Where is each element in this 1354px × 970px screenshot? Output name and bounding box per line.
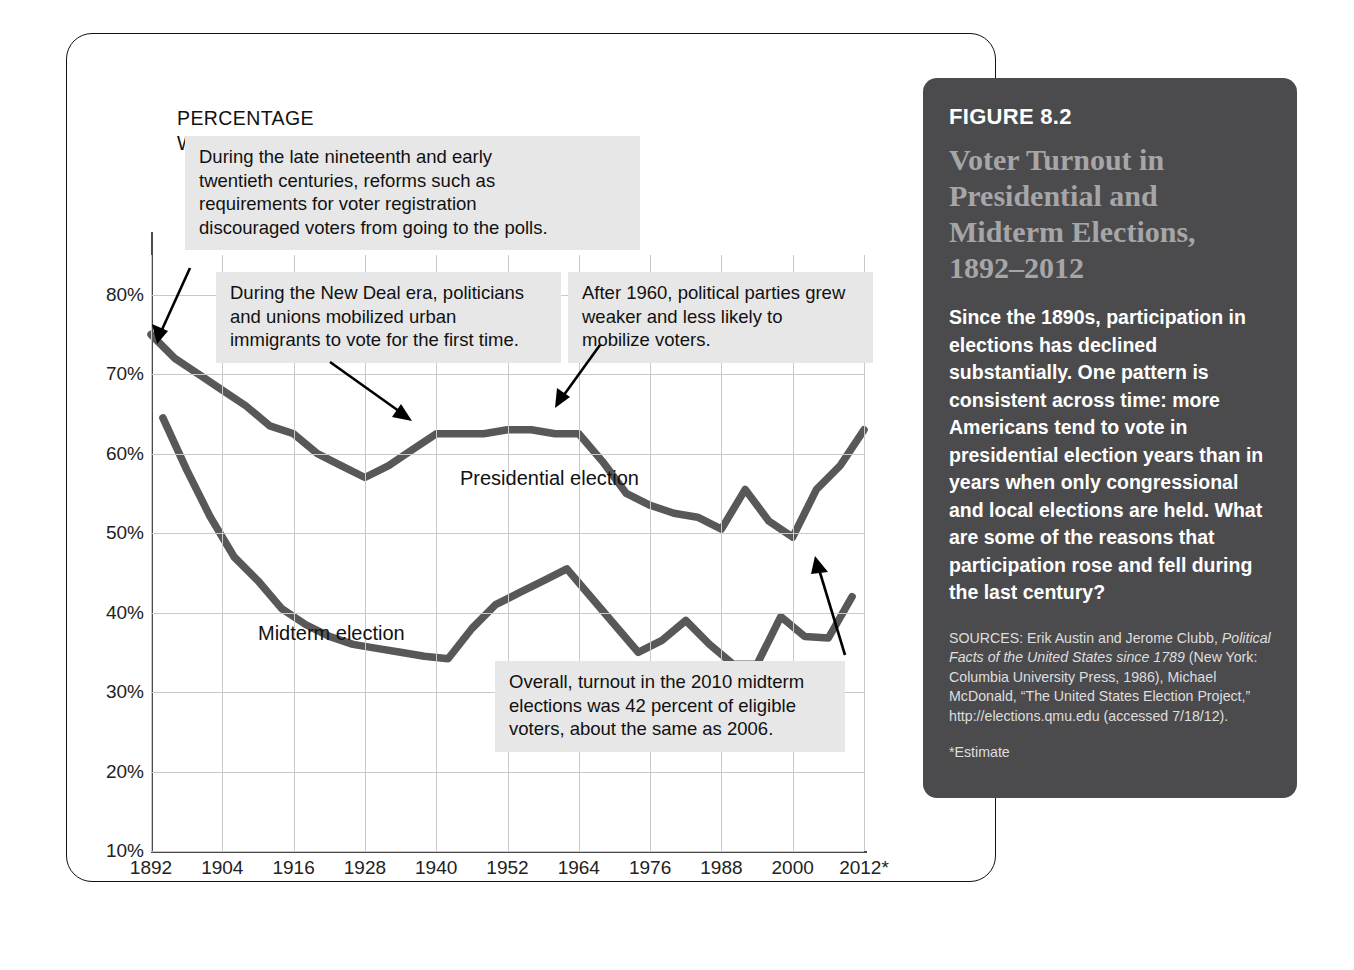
x-axis-tick-label: 1904 [201, 857, 243, 879]
y-axis-tick-label: 40% [106, 602, 144, 624]
x-axis-tick-label: 1976 [629, 857, 671, 879]
figure-body-text: Since the 1890s, participation in electi… [949, 304, 1271, 607]
y-axis-tick-label: 60% [106, 443, 144, 465]
y-axis-tick-label: 30% [106, 681, 144, 703]
series-label-midterm: Midterm election [258, 622, 405, 645]
y-axis-tick-label: 70% [106, 363, 144, 385]
series-label-presidential: Presidential election [460, 467, 639, 490]
annotation-callout-2: During the New Deal era, politicians and… [216, 272, 561, 363]
figure-number: FIGURE 8.2 [949, 104, 1271, 130]
figure-title: Voter Turnout in Presidential and Midter… [949, 142, 1271, 286]
sources-prefix: SOURCES: Erik Austin and Jerome Clubb, [949, 630, 1218, 646]
figure-sources: SOURCES: Erik Austin and Jerome Clubb, P… [949, 629, 1271, 727]
x-axis-tick-label: 1964 [558, 857, 600, 879]
x-axis-tick-label: 2012* [839, 857, 889, 879]
figure-estimate-note: *Estimate [949, 744, 1271, 760]
x-axis-tick-label: 1928 [344, 857, 386, 879]
figure-page: PERCENTAGE WHO VOTED 80%70%60%50%40%30%2… [0, 0, 1354, 970]
annotation-callout-3: After 1960, political parties grew weake… [568, 272, 873, 363]
y-axis-tick-label: 20% [106, 761, 144, 783]
annotation-callout-1: During the late nineteenth and early twe… [185, 136, 640, 250]
x-axis-tick-label: 1892 [130, 857, 172, 879]
gridline-vertical [151, 255, 152, 851]
x-axis-tick-label: 2000 [772, 857, 814, 879]
y-axis-tick-label: 80% [106, 284, 144, 306]
x-axis-tick-label: 1988 [700, 857, 742, 879]
y-axis-tick-label: 50% [106, 522, 144, 544]
figure-panel: FIGURE 8.2 Voter Turnout in Presidential… [923, 78, 1297, 798]
x-axis-tick-label: 1916 [272, 857, 314, 879]
gridline-horizontal [151, 851, 864, 852]
x-axis-tick-label: 1940 [415, 857, 457, 879]
x-axis-tick-label: 1952 [486, 857, 528, 879]
annotation-callout-4: Overall, turnout in the 2010 midterm ele… [495, 661, 845, 752]
